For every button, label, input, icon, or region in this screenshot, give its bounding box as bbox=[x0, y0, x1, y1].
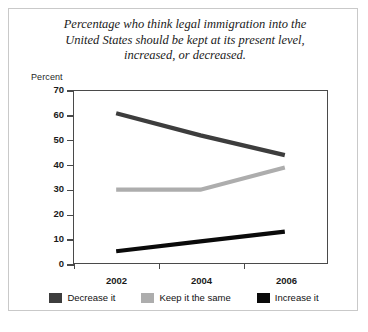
y-tick-mark bbox=[67, 215, 74, 216]
y-axis-label: Percent bbox=[31, 72, 63, 82]
y-tick-label: 60 bbox=[53, 109, 64, 120]
x-tick-mark bbox=[74, 263, 75, 269]
y-tick-mark bbox=[67, 190, 74, 191]
legend-label: Increase it bbox=[275, 292, 319, 303]
y-tick-label: 40 bbox=[53, 159, 64, 170]
y-tick-mark bbox=[67, 264, 74, 265]
x-tick-label-2004: 2004 bbox=[191, 275, 212, 286]
x-tick-mark bbox=[244, 263, 245, 269]
chart-title-line-3: increased, or decreased. bbox=[35, 48, 335, 64]
y-tick-label: 10 bbox=[53, 233, 64, 244]
y-tick-label: 50 bbox=[53, 134, 64, 145]
chart-title-line-1: Percentage who think legal immigration i… bbox=[35, 17, 335, 33]
y-tick-label: 70 bbox=[53, 84, 64, 95]
legend-swatch-icon bbox=[257, 293, 270, 303]
series-lines bbox=[74, 91, 327, 264]
series-line-increase-it bbox=[116, 232, 285, 252]
source-note bbox=[9, 320, 359, 331]
chart-figure: Percentage who think legal immigration i… bbox=[8, 8, 358, 311]
y-tick-label: 30 bbox=[53, 183, 64, 194]
plot-area: 706050403020100 200220042006 bbox=[73, 90, 328, 264]
y-tick-mark bbox=[67, 140, 74, 141]
x-tick-mark bbox=[159, 263, 160, 269]
y-tick-mark bbox=[67, 239, 74, 240]
chart-title: Percentage who think legal immigration i… bbox=[35, 17, 335, 64]
y-tick-mark bbox=[67, 90, 74, 91]
series-line-decrease-it bbox=[116, 113, 285, 155]
legend-label: Keep it the same bbox=[159, 292, 230, 303]
y-tick-mark bbox=[67, 165, 74, 166]
y-tick-label: 20 bbox=[53, 208, 64, 219]
y-tick-mark bbox=[67, 115, 74, 116]
legend-swatch-icon bbox=[49, 293, 62, 303]
chart-legend: Decrease itKeep it the sameIncrease it bbox=[9, 292, 359, 303]
legend-label: Decrease it bbox=[67, 292, 115, 303]
y-tick-label: 0 bbox=[59, 258, 64, 269]
x-tick-label-2006: 2006 bbox=[276, 275, 297, 286]
series-line-keep-it-the-same bbox=[116, 167, 285, 189]
legend-item-keep-it-the-same[interactable]: Keep it the same bbox=[141, 292, 230, 303]
legend-item-decrease-it[interactable]: Decrease it bbox=[49, 292, 115, 303]
x-tick-label-2002: 2002 bbox=[106, 275, 127, 286]
legend-item-increase-it[interactable]: Increase it bbox=[257, 292, 319, 303]
chart-title-line-2: United States should be kept at its pres… bbox=[35, 33, 335, 49]
legend-swatch-icon bbox=[141, 293, 154, 303]
